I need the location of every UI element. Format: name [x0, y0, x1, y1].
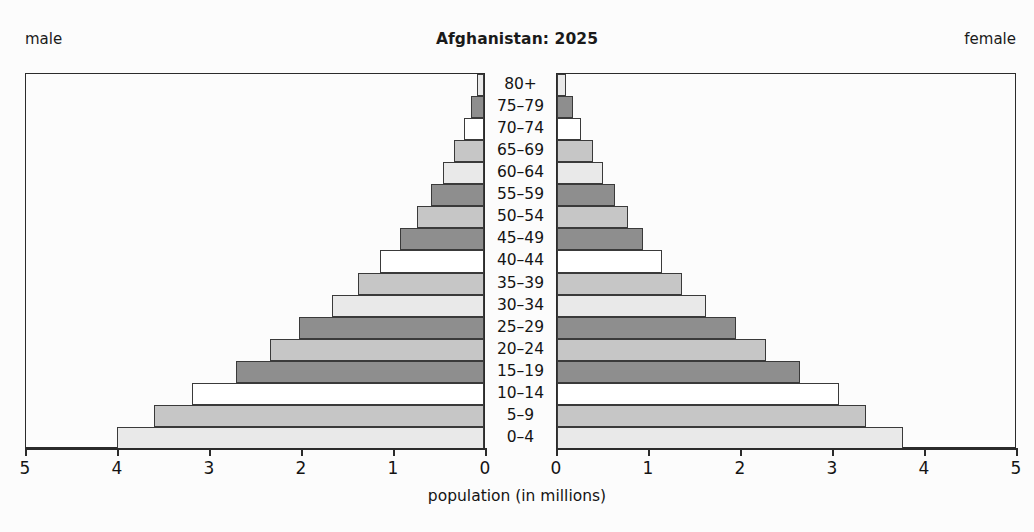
bar-row — [557, 162, 1015, 184]
bar-row — [557, 339, 1015, 361]
axis-tick-label: 3 — [189, 458, 229, 478]
axis-tick — [209, 448, 211, 456]
bar-row — [26, 206, 484, 228]
bar-female-50-54 — [557, 206, 628, 228]
male-bars — [26, 74, 484, 447]
bar-female-15-19 — [557, 361, 800, 383]
bar-female-75-79 — [557, 96, 573, 118]
bar-female-80plus — [557, 74, 566, 96]
bar-male-20-24 — [270, 339, 484, 361]
bar-row — [26, 317, 484, 339]
bar-row — [26, 74, 484, 96]
axis-tick-label: 0 — [465, 458, 505, 478]
bar-female-55-59 — [557, 184, 615, 206]
age-label-70-74: 70–74 — [485, 117, 556, 139]
bar-male-80plus — [477, 74, 484, 96]
bar-male-10-14 — [192, 383, 484, 405]
age-label-60-64: 60–64 — [485, 161, 556, 183]
bar-female-10-14 — [557, 383, 839, 405]
bar-male-5-9 — [154, 405, 484, 427]
male-panel — [25, 73, 485, 448]
bar-row — [557, 405, 1015, 427]
female-panel — [556, 73, 1016, 448]
bar-row — [557, 361, 1015, 383]
axis-tick — [924, 448, 926, 456]
bar-row — [26, 228, 484, 250]
bar-male-50-54 — [417, 206, 484, 228]
axis-tick-label: 4 — [904, 458, 944, 478]
bar-row — [557, 427, 1015, 449]
bar-male-30-34 — [332, 295, 484, 317]
axis-tick-label: 2 — [720, 458, 760, 478]
bar-male-40-44 — [380, 250, 484, 272]
bar-female-70-74 — [557, 118, 581, 140]
axis-tick-label: 1 — [628, 458, 668, 478]
axis-tick — [832, 448, 834, 456]
age-label-55-59: 55–59 — [485, 183, 556, 205]
bar-row — [557, 250, 1015, 272]
age-label-65-69: 65–69 — [485, 139, 556, 161]
bar-row — [557, 96, 1015, 118]
bar-row — [557, 206, 1015, 228]
female-side-label: female — [964, 30, 1016, 48]
bar-male-70-74 — [464, 118, 484, 140]
bar-row — [557, 273, 1015, 295]
age-label-30-34: 30–34 — [485, 294, 556, 316]
bar-male-60-64 — [443, 162, 484, 184]
age-label-75-79: 75–79 — [485, 95, 556, 117]
bar-female-65-69 — [557, 140, 593, 162]
bar-row — [26, 295, 484, 317]
axis-title: population (in millions) — [0, 487, 1034, 505]
axis-tick-label: 5 — [5, 458, 45, 478]
female-axis-line — [556, 448, 1016, 450]
bar-row — [26, 184, 484, 206]
axis-tick — [740, 448, 742, 456]
bar-row — [26, 96, 484, 118]
bar-row — [26, 273, 484, 295]
bar-male-55-59 — [431, 184, 484, 206]
age-label-35-39: 35–39 — [485, 272, 556, 294]
bar-female-35-39 — [557, 273, 682, 295]
age-label-15-19: 15–19 — [485, 360, 556, 382]
age-label-40-44: 40–44 — [485, 249, 556, 271]
age-group-labels: 80+75–7970–7465–6960–6455–5950–5445–4940… — [485, 73, 556, 448]
age-label-5-9: 5–9 — [485, 404, 556, 426]
bar-row — [557, 317, 1015, 339]
bar-female-30-34 — [557, 295, 706, 317]
age-label-20-24: 20–24 — [485, 338, 556, 360]
axis-tick — [556, 448, 558, 456]
axis-tick — [648, 448, 650, 456]
bar-male-25-29 — [299, 317, 484, 339]
age-label-80plus: 80+ — [485, 73, 556, 95]
bar-female-0-4 — [557, 427, 903, 449]
bar-row — [557, 74, 1015, 96]
bar-row — [557, 383, 1015, 405]
population-pyramid-figure: male Afghanistan: 2025 female 80+75–7970… — [0, 0, 1034, 532]
bar-male-35-39 — [358, 273, 484, 295]
axis-tick-label: 4 — [97, 458, 137, 478]
bar-female-5-9 — [557, 405, 866, 427]
bar-male-15-19 — [236, 361, 484, 383]
bar-row — [557, 118, 1015, 140]
axis-tick-label: 5 — [996, 458, 1034, 478]
bar-row — [26, 118, 484, 140]
bar-row — [26, 250, 484, 272]
male-axis-line — [25, 448, 485, 450]
bar-female-20-24 — [557, 339, 766, 361]
axis-tick — [485, 448, 487, 456]
axis-tick — [117, 448, 119, 456]
age-label-0-4: 0–4 — [485, 426, 556, 448]
bar-row — [26, 361, 484, 383]
axis-tick-label: 3 — [812, 458, 852, 478]
bar-row — [26, 339, 484, 361]
bar-row — [26, 140, 484, 162]
bar-row — [557, 140, 1015, 162]
bar-male-65-69 — [454, 140, 484, 162]
axis-tick — [393, 448, 395, 456]
bar-male-0-4 — [117, 427, 484, 449]
age-label-45-49: 45–49 — [485, 227, 556, 249]
bar-row — [557, 184, 1015, 206]
bar-female-25-29 — [557, 317, 736, 339]
age-label-10-14: 10–14 — [485, 382, 556, 404]
bar-row — [26, 162, 484, 184]
